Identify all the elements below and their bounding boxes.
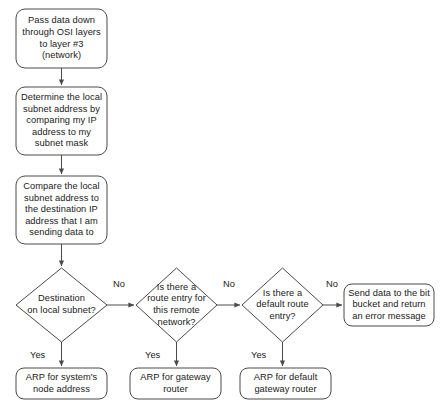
shape-send-to-bit-bucket (344, 284, 434, 326)
shape-pass-data-down (16, 9, 107, 68)
edge-label-yes-3: Yes (251, 350, 266, 361)
edge-label-no-1: No (113, 279, 125, 290)
shape-arp-gateway-router (130, 368, 221, 399)
edge-label-yes-2: Yes (145, 350, 160, 361)
shape-arp-default-gateway-router (240, 368, 331, 399)
shape-default-route-entry (242, 268, 323, 342)
edge-label-no-3: No (326, 279, 338, 290)
edge-label-yes-1: Yes (30, 350, 45, 361)
shape-destination-on-local-subnet (16, 268, 107, 342)
shape-arp-system-node-address (16, 368, 107, 399)
shape-determine-local-subnet (16, 87, 107, 155)
flowchart-diagram: Pass data down through OSI layers to lay… (0, 0, 444, 410)
shape-compare-subnet-destination (16, 176, 107, 244)
shape-route-entry-remote-network (136, 268, 217, 342)
edge-label-no-2: No (223, 279, 235, 290)
flowchart-canvas (0, 0, 444, 410)
